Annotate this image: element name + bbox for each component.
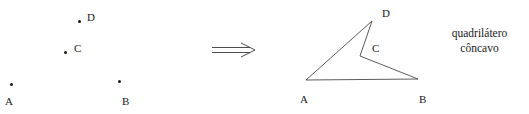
point-dot-d [78,20,81,23]
vertex-label-d: D [382,8,390,19]
vertex-label-b: B [419,94,426,105]
point-label-b: B [122,96,129,107]
vertex-label-a: A [300,94,308,105]
point-label-d: D [87,12,95,23]
figure-concave-quadrilateral-construction: A B C D A D C B quadrilátero [0,0,529,114]
caption-line-2: côncavo [430,41,529,56]
vertex-label-c: C [372,43,379,54]
arrow-panel [200,0,290,114]
quadrilateral-path [306,21,418,80]
left-panel-points: A B C D [0,0,200,114]
figure-caption: quadrilátero côncavo [430,26,529,56]
caption-panel: quadrilátero côncavo [430,0,529,114]
point-dot-c [64,51,67,54]
point-dot-b [118,80,121,83]
quadrilateral-outline [290,0,430,114]
right-panel-quadrilateral: A D C B [290,0,430,114]
point-dot-a [10,83,13,86]
caption-line-1: quadrilátero [430,26,529,41]
point-label-a: A [5,96,13,107]
double-arrow-right-icon [208,38,268,64]
point-label-c: C [74,43,81,54]
